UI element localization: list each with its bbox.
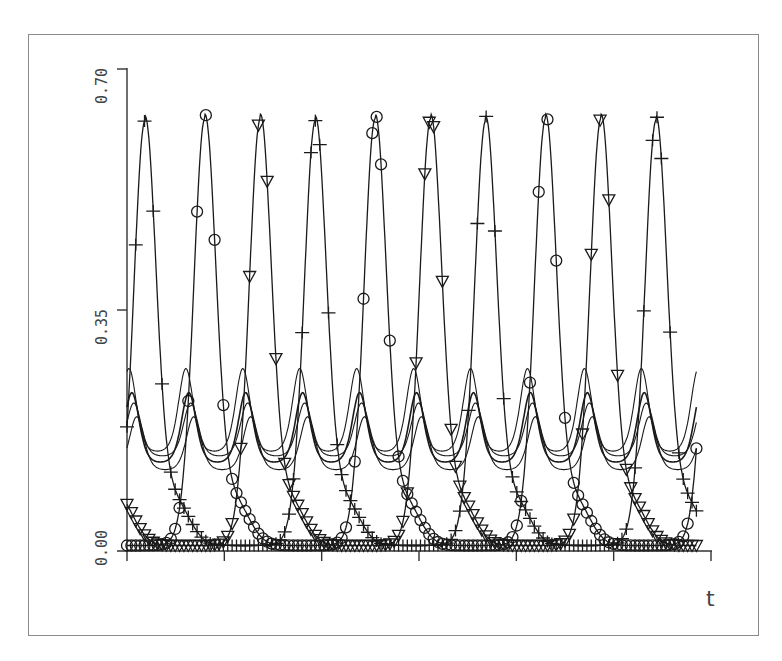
plus-marker <box>146 205 160 217</box>
x-axis-label: t <box>706 586 715 611</box>
plus-marker <box>505 471 519 483</box>
plus-marker <box>138 115 152 127</box>
plus-marker <box>497 393 511 405</box>
triangle-series <box>121 114 702 551</box>
plus-marker <box>155 378 169 390</box>
plus-marker <box>646 134 660 146</box>
plus-marker <box>663 326 677 338</box>
circle-series-line <box>127 114 696 545</box>
thin-curve-2 <box>127 393 696 462</box>
plus-marker <box>295 327 309 339</box>
triangle-series-line <box>127 114 696 545</box>
y-tick-label-035: 0.35 <box>93 309 111 345</box>
plus-marker <box>304 147 318 159</box>
plus-series-line <box>127 116 696 545</box>
plus-marker <box>335 469 349 481</box>
plus-marker <box>470 218 484 230</box>
plus-marker <box>488 225 502 237</box>
y-tick-label-000: 0.00 <box>93 530 111 566</box>
plus-marker <box>676 473 690 485</box>
line-chart: 0.70 0.35 0.00 t <box>0 0 782 661</box>
plus-marker <box>168 483 182 495</box>
thin-curve-2-line <box>127 393 696 462</box>
y-tick-label-070: 0.70 <box>93 68 111 104</box>
plus-marker <box>282 508 296 520</box>
plus-marker <box>637 305 651 317</box>
plus-marker <box>650 111 664 123</box>
plus-marker <box>164 466 178 478</box>
plus-marker <box>129 239 143 251</box>
plus-marker <box>654 152 668 164</box>
series <box>120 110 703 552</box>
plus-marker <box>321 307 335 319</box>
plus-marker <box>330 439 344 451</box>
plus-marker <box>479 110 493 122</box>
plus-marker <box>313 139 327 151</box>
x-ticks <box>127 551 711 561</box>
plus-marker <box>453 505 467 517</box>
plus-series <box>120 110 703 551</box>
plus-marker <box>308 115 322 127</box>
